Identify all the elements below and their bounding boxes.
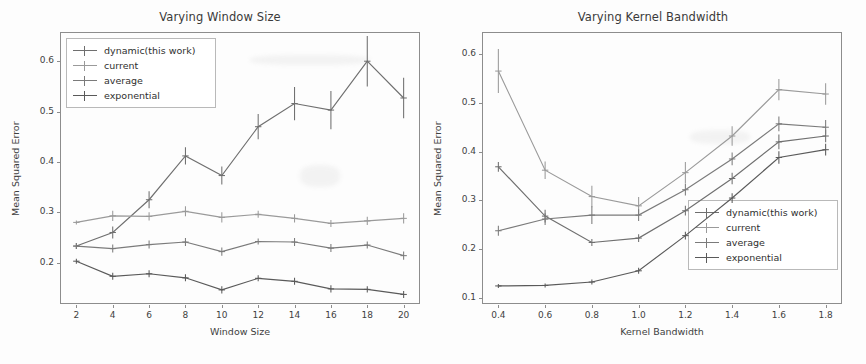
- series-path: [498, 71, 825, 206]
- series-path: [76, 61, 403, 246]
- series-path: [498, 124, 825, 231]
- series-current: [73, 206, 407, 227]
- series-path: [76, 261, 403, 294]
- chart-panel-varying-kernel-bandwidth: Varying Kernel Bandwidth Mean Squared Er…: [440, 0, 866, 364]
- series-dynamic-this-work-: [73, 36, 407, 249]
- series-path: [76, 242, 403, 256]
- chart-panel-varying-window-size: Varying Window Size Mean Squared Error W…: [0, 0, 440, 364]
- series-current: [495, 49, 829, 215]
- series-average: [73, 238, 407, 260]
- figure-canvas: Varying Window Size Mean Squared Error W…: [0, 0, 866, 364]
- series-dynamic-this-work-: [495, 130, 829, 246]
- series-lines: [0, 0, 440, 364]
- series-exponential: [73, 259, 407, 298]
- series-lines: [440, 0, 866, 364]
